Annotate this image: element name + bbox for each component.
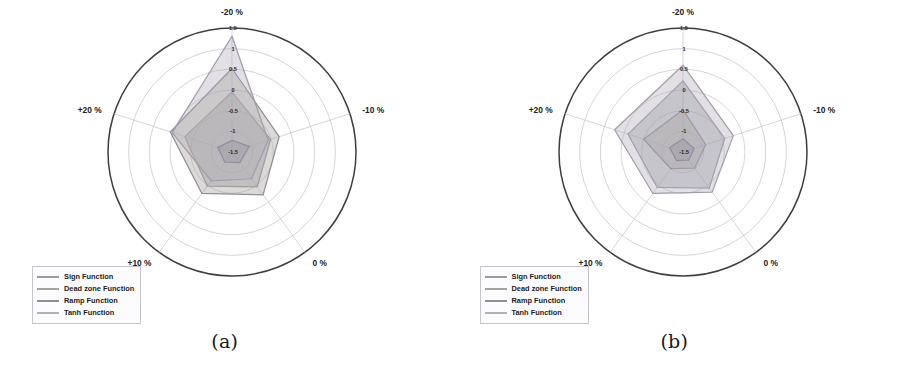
radial-tick-label: 1 — [682, 46, 685, 52]
legend-item: Ramp Function — [485, 295, 582, 307]
angular-axis-label: +20 % — [528, 105, 553, 115]
radial-tick-label: 1 — [231, 46, 234, 52]
angular-axis-label: 0 % — [763, 258, 778, 268]
legend-b: Sign FunctionDead zone FunctionRamp Func… — [480, 266, 589, 324]
legend-swatch-icon — [37, 312, 59, 314]
legend-label: Dead zone Function — [64, 284, 134, 294]
radial-tick-label: 0 — [682, 87, 685, 93]
radial-tick-label: -0.5 — [679, 108, 689, 114]
legend-label: Ramp Function — [512, 296, 566, 306]
radial-tick-label: 0.5 — [229, 66, 237, 72]
caption-a: (a) — [0, 330, 450, 352]
legend-label: Ramp Function — [64, 296, 118, 306]
legend-item: Dead zone Function — [37, 283, 134, 295]
radial-tick-label: -1 — [681, 128, 686, 134]
radial-tick-label: 0.5 — [680, 66, 688, 72]
angular-axis-label: +20 % — [78, 105, 103, 115]
figure-two-radar-charts: 1.510.50-0.5-1-1.5-20 %-10 %0 %+10 %+20 … — [0, 0, 899, 386]
angular-axis-label: 0 % — [313, 258, 328, 268]
angular-axis-label: -10 % — [362, 105, 384, 115]
panel-a: 1.510.50-0.5-1-1.5-20 %-10 %0 %+10 %+20 … — [0, 0, 450, 386]
angular-axis-label: -20 % — [221, 7, 243, 17]
legend-swatch-icon — [485, 312, 507, 314]
legend-swatch-icon — [37, 276, 59, 278]
radial-tick-label: -1.5 — [679, 149, 689, 155]
legend-item: Dead zone Function — [485, 283, 582, 295]
radial-tick-label: 0 — [231, 87, 234, 93]
angular-axis-label: -20 % — [672, 7, 694, 17]
radar-series-tanh-function — [614, 65, 733, 193]
angular-axis-label: -10 % — [813, 105, 835, 115]
legend-label: Tanh Function — [512, 308, 562, 318]
legend-item: Sign Function — [485, 271, 582, 283]
radial-tick-label: 1.5 — [680, 25, 688, 31]
radial-tick-label: 1.5 — [229, 25, 237, 31]
legend-item: Tanh Function — [37, 307, 134, 319]
legend-swatch-icon — [485, 288, 507, 290]
legend-item: Ramp Function — [37, 295, 134, 307]
legend-item: Tanh Function — [485, 307, 582, 319]
legend-label: Tanh Function — [64, 308, 114, 318]
legend-item: Sign Function — [37, 271, 134, 283]
legend-swatch-icon — [37, 288, 59, 290]
caption-b: (b) — [450, 330, 899, 352]
legend-label: Sign Function — [64, 272, 113, 282]
legend-swatch-icon — [485, 276, 507, 278]
legend-a: Sign FunctionDead zone FunctionRamp Func… — [32, 266, 141, 324]
radial-tick-label: -1.5 — [228, 149, 238, 155]
panel-b: 1.510.50-0.5-1-1.5-20 %-10 %0 %+10 %+20 … — [450, 0, 899, 386]
radial-tick-label: -0.5 — [228, 108, 238, 114]
radial-tick-label: -1 — [231, 128, 236, 134]
legend-label: Sign Function — [512, 272, 561, 282]
legend-swatch-icon — [37, 300, 59, 302]
legend-swatch-icon — [485, 300, 507, 302]
legend-label: Dead zone Function — [512, 284, 582, 294]
